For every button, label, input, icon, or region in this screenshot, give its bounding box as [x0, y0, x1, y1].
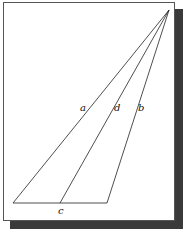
label-c: c — [58, 206, 64, 216]
triangle-diagram — [0, 0, 189, 233]
label-b: b — [138, 103, 144, 113]
side-a — [13, 10, 169, 203]
label-a: a — [80, 103, 86, 113]
label-d: d — [114, 103, 120, 113]
